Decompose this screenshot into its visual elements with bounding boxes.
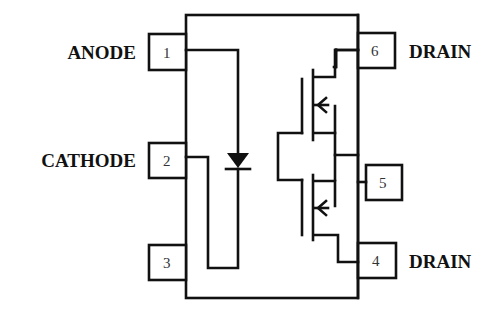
svg-text:6: 6 xyxy=(371,43,379,59)
label-drain-bottom: DRAIN xyxy=(409,251,472,272)
dual-mosfet-icon xyxy=(278,15,366,298)
led-diode-icon xyxy=(186,50,250,268)
svg-text:1: 1 xyxy=(163,45,171,61)
pin-2: 2 xyxy=(149,143,186,178)
pinout-diagram: 1 2 3 6 5 4 xyxy=(0,0,492,320)
svg-text:5: 5 xyxy=(379,175,387,191)
label-cathode: CATHODE xyxy=(41,150,136,171)
package-body xyxy=(186,15,358,298)
svg-text:4: 4 xyxy=(372,253,380,269)
svg-text:3: 3 xyxy=(163,255,171,271)
pin-4: 4 xyxy=(358,243,396,278)
label-drain-top: DRAIN xyxy=(409,41,472,62)
pin-5: 5 xyxy=(366,165,402,200)
pin-1: 1 xyxy=(149,34,186,70)
pin-3: 3 xyxy=(149,245,186,280)
svg-text:2: 2 xyxy=(163,153,171,169)
label-anode: ANODE xyxy=(67,42,136,63)
pin-6: 6 xyxy=(358,33,395,68)
